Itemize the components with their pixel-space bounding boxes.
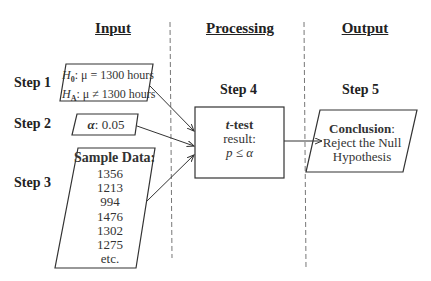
alternative-hypothesis: HA: μ ≠ 1300 hours [62,87,152,106]
divider-input-processing [170,22,172,258]
hypotheses-text: H0: μ = 1300 hours HA: μ ≠ 1300 hours [62,68,152,107]
arrow-alpha-to-process [137,126,194,146]
arrow-hypotheses-to-process [150,86,194,131]
step-2-label: Step 2 [14,116,51,132]
divider-processing-output [304,22,306,268]
sample-value: 1275 [80,238,140,252]
sample-value: 1302 [80,224,140,238]
sample-value: 1356 [80,167,140,181]
column-header-processing: Processing [200,20,280,37]
step-4-label: Step 4 [220,82,257,98]
process-text: t-test result: p ≤ α [195,118,284,160]
sample-value: 1476 [80,210,140,224]
sample-data-list: 1356 1213 994 1476 1302 1275 etc. [80,167,140,266]
column-header-output: Output [330,20,400,37]
step-1-label: Step 1 [14,75,51,91]
alpha-text: α: 0.05 [78,118,134,132]
sample-value: 994 [80,195,140,209]
null-hypothesis: H0: μ = 1300 hours [62,68,152,87]
column-header-input: Input [83,20,143,37]
t-test-label: t-test [195,118,284,132]
conclusion-title: Conclusion: [310,122,414,136]
result-expression: p ≤ α [195,146,284,160]
step-5-label: Step 5 [342,82,379,98]
sample-value: etc. [80,252,140,266]
conclusion-line-1: Reject the Null [310,136,414,150]
sample-value: 1213 [80,181,140,195]
result-label: result: [195,132,284,146]
conclusion-text: Conclusion: Reject the Null Hypothesis [310,122,414,164]
step-3-label: Step 3 [14,175,51,191]
conclusion-line-2: Hypothesis [310,150,414,164]
sample-data-title: Sample Data: [74,151,154,165]
